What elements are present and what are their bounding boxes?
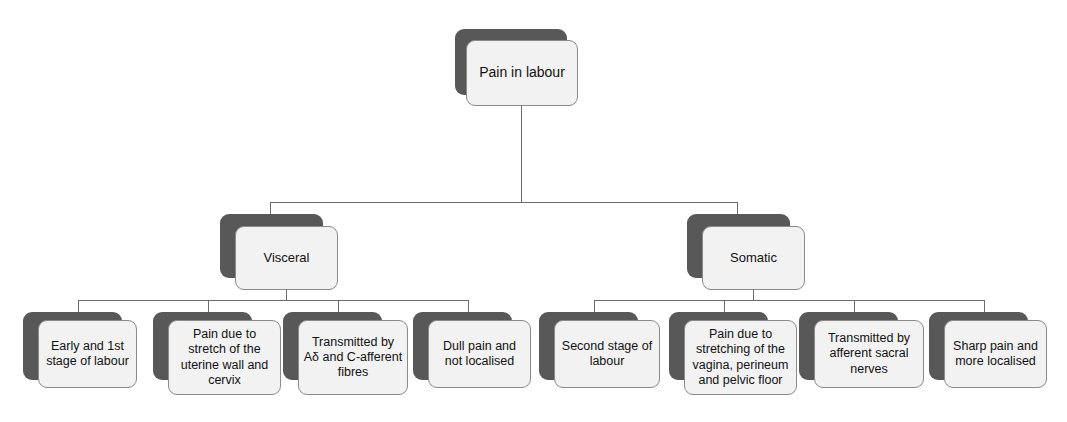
node-somatic-child-3[interactable]: Transmitted by afferent sacral nerves bbox=[799, 312, 898, 380]
node-visceral-label: Visceral bbox=[263, 250, 309, 266]
connector-drop-visceral-child-1 bbox=[78, 300, 79, 312]
connector-drop-visceral-child-2 bbox=[208, 300, 209, 312]
node-root-label: Pain in labour bbox=[479, 64, 565, 81]
node-visceral[interactable]: Visceral bbox=[220, 214, 323, 278]
connector-drop-visceral-child-3 bbox=[338, 300, 339, 312]
card-face: Visceral bbox=[235, 226, 338, 290]
node-label: Transmitted by Aδ and C-afferent fibres bbox=[303, 335, 403, 381]
node-root[interactable]: Pain in labour bbox=[455, 29, 567, 95]
node-label: Pain due to stretch of the uterine wall … bbox=[173, 327, 276, 388]
card-face: Early and 1st stage of labour bbox=[38, 320, 137, 388]
connector-visceral-stem bbox=[286, 290, 287, 300]
connector-drop-visceral-child-4 bbox=[468, 300, 469, 312]
node-label: Dull pain and not localised bbox=[433, 339, 526, 370]
node-label: Early and 1st stage of labour bbox=[43, 339, 132, 370]
node-label: Sharp pain and more localised bbox=[949, 339, 1042, 370]
node-label: Transmitted by afferent sacral nerves bbox=[819, 331, 919, 377]
node-visceral-child-4[interactable]: Dull pain and not localised bbox=[413, 312, 512, 380]
connector-level2-bus bbox=[270, 202, 738, 203]
card-face: Pain due to stretch of the uterine wall … bbox=[168, 320, 281, 395]
card-face: Pain due to stretching of the vagina, pe… bbox=[684, 320, 797, 395]
card-face: Transmitted by Aδ and C-afferent fibres bbox=[298, 320, 408, 395]
connector-root-stem bbox=[521, 105, 522, 202]
node-somatic-label: Somatic bbox=[730, 250, 777, 266]
node-visceral-child-1[interactable]: Early and 1st stage of labour bbox=[23, 312, 122, 380]
node-visceral-child-2[interactable]: Pain due to stretch of the uterine wall … bbox=[153, 312, 252, 380]
connector-somatic-stem bbox=[753, 290, 754, 300]
node-somatic-child-1[interactable]: Second stage of labour bbox=[539, 312, 638, 380]
node-somatic[interactable]: Somatic bbox=[687, 214, 790, 278]
card-face: Somatic bbox=[702, 226, 805, 290]
connector-drop-somatic-child-4 bbox=[984, 300, 985, 312]
connector-drop-somatic-child-1 bbox=[594, 300, 595, 312]
node-somatic-child-2[interactable]: Pain due to stretching of the vagina, pe… bbox=[669, 312, 768, 380]
card-face: Pain in labour bbox=[466, 40, 578, 106]
connector-drop-somatic-child-2 bbox=[724, 300, 725, 312]
card-face: Dull pain and not localised bbox=[428, 320, 531, 388]
connector-visceral-bus bbox=[78, 300, 468, 301]
node-somatic-child-4[interactable]: Sharp pain and more localised bbox=[929, 312, 1028, 380]
card-face: Sharp pain and more localised bbox=[944, 320, 1047, 388]
connector-somatic-bus bbox=[594, 300, 984, 301]
connector-drop-somatic-child-3 bbox=[854, 300, 855, 312]
diagram-canvas: Pain in labour Visceral Somatic Early an… bbox=[0, 0, 1067, 422]
node-visceral-child-3[interactable]: Transmitted by Aδ and C-afferent fibres bbox=[283, 312, 382, 380]
card-face: Transmitted by afferent sacral nerves bbox=[814, 320, 924, 388]
node-label: Second stage of labour bbox=[559, 339, 655, 370]
node-label: Pain due to stretching of the vagina, pe… bbox=[689, 327, 792, 388]
card-face: Second stage of labour bbox=[554, 320, 660, 388]
